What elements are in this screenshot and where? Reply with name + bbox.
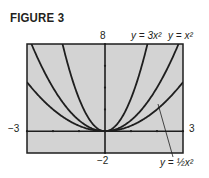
- x-tick: [156, 130, 158, 132]
- curve-label-3x2: y = 3x²: [131, 31, 161, 41]
- y-tick: [104, 108, 106, 110]
- x-tick: [52, 130, 54, 132]
- curve-label-half-x2: y = ½x²: [160, 158, 193, 168]
- curve-label-x2: y = x²: [168, 31, 193, 41]
- y-tick: [104, 152, 106, 154]
- x-min-label: −3: [8, 124, 19, 134]
- x-tick: [130, 130, 132, 132]
- y-tick: [104, 43, 106, 45]
- y-tick: [104, 65, 106, 67]
- y-max-label: 8: [100, 31, 106, 41]
- y-tick: [104, 87, 106, 89]
- x-tick: [78, 130, 80, 132]
- x-tick: [26, 130, 28, 132]
- y-min-label: −2: [97, 156, 108, 166]
- x-tick: [182, 130, 184, 132]
- x-max-label: 3: [189, 124, 195, 134]
- graph-window: [0, 0, 209, 178]
